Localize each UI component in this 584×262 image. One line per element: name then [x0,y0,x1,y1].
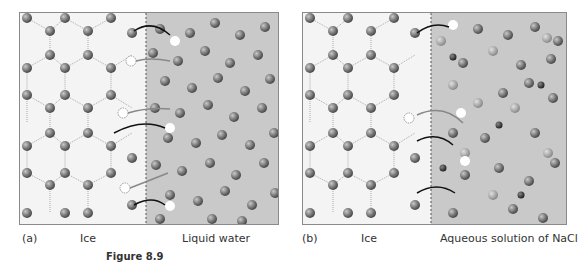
panel-a-ice-label: Ice [80,232,96,245]
ice-water-illustration [20,13,279,225]
ice-region [20,13,146,225]
panel-a-letter: (a) [22,232,37,245]
panel-b-ice-nacl-solution [302,12,567,225]
solution-region [431,13,567,225]
panel-a-ice-liquid-water [19,12,279,225]
figure-title: Figure 8.9 [106,251,163,262]
panel-b-solution-label: Aqueous solution of NaCl [440,232,578,245]
panel-b-letter: (b) [302,232,318,245]
ice-nacl-illustration [303,13,567,225]
panel-a-liquid-label: Liquid water [182,232,250,245]
panel-b-ice-label: Ice [361,232,377,245]
